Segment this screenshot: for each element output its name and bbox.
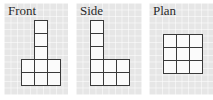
grid-cell — [163, 34, 177, 48]
side-view-title: Side — [80, 4, 103, 18]
grid-cell — [189, 34, 203, 48]
grid-cell — [21, 72, 35, 86]
grid-cell — [116, 72, 130, 86]
grid-cell — [34, 33, 48, 47]
grid-cell — [47, 59, 61, 73]
grid-cell — [103, 59, 117, 73]
grid-cell — [189, 60, 203, 74]
grid-cell — [163, 60, 177, 74]
plan-view-title: Plan — [153, 4, 176, 18]
grid-cell — [176, 34, 190, 48]
grid-cell — [116, 59, 130, 73]
grid-cell — [90, 20, 104, 34]
side-view-panel: Side — [76, 3, 142, 95]
grid-cell — [163, 47, 177, 61]
grid-cell — [90, 46, 104, 60]
grid-cell — [34, 59, 48, 73]
grid-cell — [34, 72, 48, 86]
grid-cell — [176, 47, 190, 61]
grid-cell — [34, 20, 48, 34]
grid-cell — [47, 72, 61, 86]
grid-cell — [189, 47, 203, 61]
front-view-panel: Front — [4, 3, 68, 95]
grid-cell — [103, 72, 117, 86]
plan-view-panel: Plan — [149, 3, 213, 95]
grid-cell — [90, 72, 104, 86]
grid-cell — [176, 60, 190, 74]
grid-cell — [90, 59, 104, 73]
grid-cell — [34, 46, 48, 60]
grid-cell — [90, 33, 104, 47]
grid-cell — [21, 59, 35, 73]
front-view-title: Front — [8, 4, 36, 18]
